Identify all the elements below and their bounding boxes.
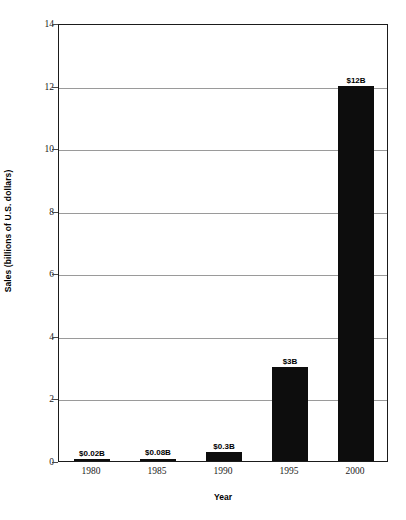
y-axis-tick-mark [52,462,58,463]
bar [206,452,242,461]
x-axis-title: Year [58,492,388,502]
bar [140,459,176,462]
y-axis-tick-label: 10 [24,144,54,154]
bar [338,86,374,461]
x-axis-tick-label: 1980 [82,466,101,476]
y-axis-tick-label: 12 [24,82,54,92]
x-axis-tick-label: 1990 [214,466,233,476]
plot-inner: $0.02B$0.08B$0.3B$3B$12B [59,25,387,461]
y-axis-tick-label: 14 [24,19,54,29]
y-axis-tick-label: 4 [24,332,54,342]
bar-value-label: $12B [346,76,365,85]
y-axis-tick-label: 0 [24,457,54,467]
bar-chart-figure: Sales (billions of U.S. dollars) 0246810… [0,0,406,520]
y-axis-tick-label: 6 [24,269,54,279]
y-axis-title: Sales (billions of U.S. dollars) [0,0,16,462]
x-axis-tick-label: 2000 [346,466,365,476]
bar-value-label: $0.02B [79,449,105,458]
x-axis-tick-label: 1995 [280,466,299,476]
bar [74,459,110,461]
bar [272,367,308,461]
bar-value-label: $3B [283,357,298,366]
x-axis-tick-labels: 19801985199019952000 [58,466,388,484]
x-axis-tick-label: 1985 [148,466,167,476]
y-axis-tick-label: 8 [24,207,54,217]
y-axis-tick-labels: 02468101214 [20,24,54,462]
plot-area: $0.02B$0.08B$0.3B$3B$12B [58,24,388,462]
y-axis-tick-label: 2 [24,394,54,404]
bar-value-label: $0.08B [145,448,171,457]
bar-value-label: $0.3B [213,442,234,451]
y-axis-title-text: Sales (billions of U.S. dollars) [3,170,13,293]
